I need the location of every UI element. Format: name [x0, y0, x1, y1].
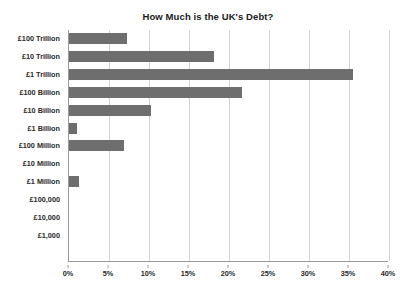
- y-axis-label: £100 Trillion: [0, 30, 64, 48]
- bar-row: [69, 173, 388, 191]
- x-axis-tick: [348, 265, 349, 268]
- x-axis-tick: [148, 265, 149, 268]
- x-axis-tick: [68, 265, 69, 268]
- y-axis-label: £1 Million: [0, 173, 64, 191]
- y-axis-label: £100,000: [0, 191, 64, 209]
- x-axis-tick: [388, 265, 389, 268]
- bar-row: [69, 48, 388, 66]
- y-axis-label: £1,000: [0, 226, 64, 244]
- bar: [69, 87, 242, 98]
- bar: [69, 69, 353, 80]
- bar: [69, 51, 214, 62]
- y-axis-label: £1 Billion: [0, 119, 64, 137]
- x-axis-label: 35%: [341, 269, 356, 278]
- chart-title: How Much is the UK's Debt?: [0, 11, 416, 22]
- gridline: [389, 30, 390, 261]
- x-axis-label: 25%: [261, 269, 276, 278]
- bar-row: [69, 226, 388, 244]
- bar-row: [69, 30, 388, 48]
- y-axis-label: £10 Million: [0, 155, 64, 173]
- y-axis-label: £1 Trillion: [0, 66, 64, 84]
- bar: [69, 123, 77, 134]
- bar-row: [69, 191, 388, 209]
- bar-row: [69, 137, 388, 155]
- x-axis-tick-labels: 0%5%10%15%20%25%30%35%40%: [68, 265, 388, 279]
- bar-row: [69, 84, 388, 102]
- bar-chart: How Much is the UK's Debt? £100 Trillion…: [0, 0, 416, 298]
- bar: [69, 33, 127, 44]
- bar-series: [69, 30, 388, 261]
- x-axis-label: 5%: [103, 269, 114, 278]
- x-axis-tick: [108, 265, 109, 268]
- x-axis-tick: [188, 265, 189, 268]
- y-axis-label: £100 Million: [0, 137, 64, 155]
- y-axis-label: £10,000: [0, 208, 64, 226]
- x-axis-label: 20%: [221, 269, 236, 278]
- bar: [69, 176, 79, 187]
- bar-row: [69, 208, 388, 226]
- plot-area: [68, 30, 388, 262]
- bar-row: [69, 66, 388, 84]
- x-axis-tick: [308, 265, 309, 268]
- x-axis-tick: [268, 265, 269, 268]
- y-axis-label: £10 Trillion: [0, 48, 64, 66]
- x-axis-label: 0%: [63, 269, 74, 278]
- bar-row: [69, 119, 388, 137]
- y-axis-label: £10 Billion: [0, 101, 64, 119]
- bar-row: [69, 101, 388, 119]
- bar: [69, 105, 151, 116]
- x-axis-label: 40%: [381, 269, 396, 278]
- x-axis-label: 10%: [141, 269, 156, 278]
- x-axis-tick: [228, 265, 229, 268]
- y-axis-category-labels: £100 Trillion£10 Trillion£1 Trillion£100…: [0, 30, 64, 262]
- bar-row: [69, 155, 388, 173]
- bar: [69, 140, 124, 151]
- y-axis-label: £100 Billion: [0, 84, 64, 102]
- x-axis-label: 15%: [181, 269, 196, 278]
- x-axis-label: 30%: [301, 269, 316, 278]
